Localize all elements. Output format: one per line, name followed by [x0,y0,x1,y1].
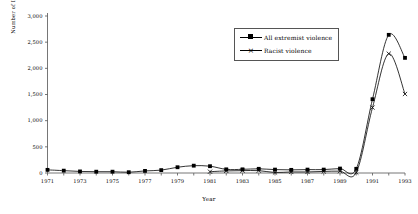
data-point-marker [403,56,407,60]
y-axis-title: Number of Incidents [10,0,16,50]
chart-legend: All extremist violence × Racist violence [234,28,339,61]
data-point-marker [111,170,115,174]
x-tick-label: 1981 [197,178,223,184]
series-line [210,54,405,177]
x-tick-label: 1979 [165,178,191,184]
series-racist-violence [208,52,407,177]
x-tick-label: 1991 [360,178,386,184]
x-tick-label: 1987 [295,178,321,184]
x-tick-label: 1971 [35,178,61,184]
y-tick-label: 500 [17,144,43,150]
series-all-extremist-violence [46,33,407,174]
filled-square-marker-icon [240,32,262,43]
y-tick-label: 3,000 [17,13,43,19]
legend-item-racist-violence: × Racist violence [240,44,312,56]
data-point-marker [159,168,163,172]
data-point-marker [127,170,131,174]
legend-label-all-extremist-violence: All extremist violence [262,34,332,41]
x-tick-label: 1973 [67,178,93,184]
x-tick-label: 1975 [100,178,126,184]
y-tick-label: 1,000 [17,117,43,123]
y-tick-label: 2,000 [17,65,43,71]
legend-label-racist-violence: Racist violence [262,47,312,54]
x-tick-label: 1985 [262,178,288,184]
data-point-marker [289,168,293,172]
data-point-marker [371,97,375,101]
data-point-marker [192,164,196,168]
data-point-marker [94,170,98,174]
legend-item-all-extremist-violence: All extremist violence [240,31,332,43]
x-tick-label: 1993 [392,178,418,184]
data-point-marker [62,169,66,173]
data-point-marker [176,165,180,169]
x-tick-label: 1977 [132,178,158,184]
y-tick-label: 2,500 [17,39,43,45]
series-line [48,34,406,174]
x-axis-title: Year [0,196,418,202]
x-tick-label: 1983 [230,178,256,184]
y-tick-label: 0 [17,170,43,176]
data-point-marker [143,169,147,173]
data-point-marker [387,33,391,37]
x-tick-label: 1989 [327,178,353,184]
y-tick-label: 1,500 [17,91,43,97]
data-point-marker [46,168,50,172]
line-chart: Number of Incidents Year 05001,0001,5002… [0,0,418,214]
data-point-marker [78,170,82,174]
cross-x-marker-icon: × [240,45,262,56]
data-point-marker [208,164,212,168]
